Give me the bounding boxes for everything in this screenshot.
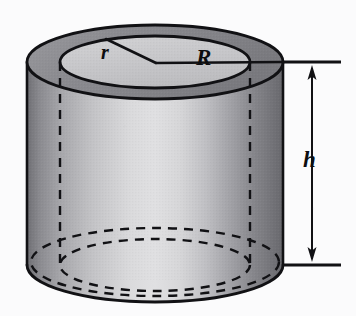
hollow-cylinder-figure: r R h <box>0 0 356 316</box>
outer-radius-leader-line <box>156 62 283 63</box>
outer-radius-label: R <box>196 46 211 69</box>
height-label: h <box>303 148 316 171</box>
inner-radius-label: r <box>101 42 109 62</box>
